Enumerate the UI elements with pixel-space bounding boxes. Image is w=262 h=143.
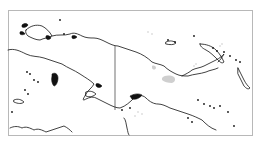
- island: [239, 61, 241, 63]
- island: [59, 19, 61, 21]
- island: [167, 39, 169, 41]
- reef-dot: [195, 63, 196, 64]
- island: [212, 47, 214, 49]
- island: [219, 105, 221, 107]
- island: [27, 93, 29, 95]
- reef-dot: [137, 111, 138, 112]
- island: [229, 55, 231, 57]
- island: [63, 33, 65, 35]
- island: [33, 79, 35, 81]
- island: [193, 35, 195, 37]
- island: [213, 107, 215, 109]
- reef-dot: [134, 115, 135, 116]
- island: [197, 99, 199, 101]
- map-view[interactable]: [0, 0, 262, 143]
- island: [233, 125, 235, 127]
- island: [235, 59, 237, 61]
- island: [24, 89, 26, 91]
- reef-dot: [219, 45, 220, 46]
- island: [174, 41, 176, 43]
- island: [227, 111, 229, 113]
- map-frame: [9, 11, 253, 136]
- new-guinea-outline-map[interactable]: [0, 0, 262, 143]
- island: [121, 109, 123, 111]
- reef-dot: [141, 113, 142, 114]
- island: [203, 103, 205, 105]
- island: [209, 105, 211, 107]
- island: [37, 81, 39, 83]
- reef-dot: [151, 33, 152, 34]
- reef-dot: [193, 65, 194, 66]
- island: [29, 73, 31, 75]
- island: [129, 107, 131, 109]
- reef-dot: [147, 31, 148, 32]
- island: [223, 51, 225, 53]
- reef-dot: [221, 43, 222, 44]
- island: [216, 50, 218, 52]
- island: [187, 117, 189, 119]
- island: [26, 71, 28, 73]
- island: [191, 121, 193, 123]
- island: [11, 111, 13, 113]
